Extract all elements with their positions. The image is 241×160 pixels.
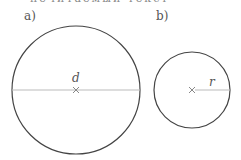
radius-label: r xyxy=(209,75,215,89)
circles-diagram xyxy=(0,0,241,160)
figure-a-label: a) xyxy=(24,9,36,23)
figure-b-label: b) xyxy=(156,9,168,23)
diameter-label: d xyxy=(72,71,80,85)
center-mark-icon xyxy=(189,87,195,93)
circle-b xyxy=(154,52,230,128)
circle-a xyxy=(12,26,140,154)
